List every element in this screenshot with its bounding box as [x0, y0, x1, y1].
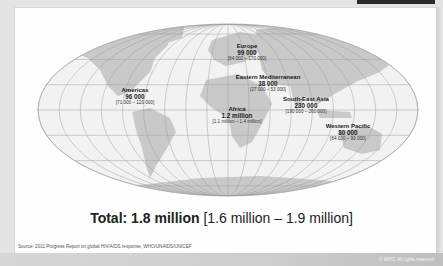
- total-summary: Total: 1.8 million [1.6 million – 1.9 mi…: [0, 210, 443, 226]
- footer-band: [0, 253, 443, 266]
- region-value: 80 000: [326, 130, 371, 136]
- world-map: [0, 0, 443, 266]
- land-antarctica: [40, 176, 420, 210]
- region-range: [64 000 – 99 000]: [326, 137, 371, 142]
- total-value: 1.8 million: [131, 210, 199, 226]
- source-note: Source: 2011 Progress Report on global H…: [18, 244, 192, 249]
- region-range: [27 000 – 53 000]: [236, 88, 301, 93]
- region-range: [1.1 million – 1.4 million]: [212, 120, 261, 125]
- region-value: 96 000: [116, 94, 154, 100]
- copyright-notice: © WHO. All rights reserved: [379, 257, 434, 262]
- region-label-europe: Europe 99 000 [84 000 – 170 000]: [228, 43, 266, 61]
- region-value: 38 000: [236, 81, 301, 87]
- region-range: [190 000 – 260 000]: [283, 110, 329, 115]
- total-range: [1.6 million – 1.9 million]: [203, 210, 352, 226]
- region-range: [71 000 – 120 000]: [116, 101, 154, 106]
- region-range: [84 000 – 170 000]: [228, 57, 266, 62]
- region-label-south-east-asia: South-East Asia 230 000 [190 000 – 260 0…: [283, 96, 329, 114]
- region-label-africa: Africa 1.2 million [1.1 million – 1.4 mi…: [212, 106, 261, 124]
- region-label-americas: Americas 96 000 [71 000 – 120 000]: [116, 87, 154, 105]
- total-label: Total:: [90, 210, 127, 226]
- region-value: 1.2 million: [212, 113, 261, 119]
- region-value: 230 000: [283, 103, 329, 109]
- region-value: 99 000: [228, 50, 266, 56]
- region-label-western-pacific: Western Pacific 80 000 [64 000 – 99 000]: [326, 123, 371, 141]
- region-label-eastern-mediterranean: Eastern Mediterranean 38 000 [27 000 – 5…: [236, 74, 301, 92]
